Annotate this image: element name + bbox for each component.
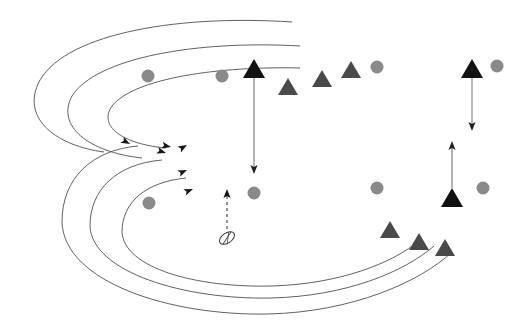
circle-top-left xyxy=(142,70,155,83)
triangle-gray-bottom-2 xyxy=(409,233,429,250)
lower-nested-curves-path-2 xyxy=(90,160,434,298)
upper-nested-curves-path-2 xyxy=(68,45,300,158)
circle-mid-left xyxy=(143,197,156,210)
upper-nested-curves-path-1 xyxy=(34,20,292,152)
triangle-gray-top-3 xyxy=(341,61,361,78)
circle-far-right-mid xyxy=(477,182,490,195)
triangle-gray-bottom-1 xyxy=(380,221,400,238)
upper-nested-curves-arrowhead-3 xyxy=(161,142,171,151)
upper-nested-curves-path-3 xyxy=(108,68,300,148)
diagram-canvas xyxy=(0,0,527,324)
circle-mid-center xyxy=(248,187,261,200)
circle-far-right-top xyxy=(491,60,504,73)
triangle-black-right-top xyxy=(461,59,483,78)
circle-top-mid xyxy=(216,70,229,83)
circle-top-right xyxy=(371,61,384,74)
lower-nested-curves-arrowhead-2 xyxy=(177,167,188,177)
circle-mid-right xyxy=(371,182,384,195)
hatched-ellipse-marker xyxy=(217,229,237,247)
vertical-arrows-group xyxy=(223,78,475,229)
lower-curve-arrowheads xyxy=(177,142,194,195)
triangle-gray-bottom-3 xyxy=(435,239,455,256)
gray-triangles-group xyxy=(278,61,455,256)
upper-nested-curves xyxy=(34,20,300,158)
lower-nested-curves-arrowhead-1 xyxy=(178,142,189,152)
diagram-svg xyxy=(0,0,527,324)
triangle-gray-top-1 xyxy=(278,78,298,95)
triangle-gray-top-2 xyxy=(312,70,332,87)
hatched-ellipse-group xyxy=(217,229,237,247)
black-triangles-group xyxy=(243,59,483,207)
triangle-black-right-bottom xyxy=(441,188,463,207)
lower-nested-curves-arrowhead-3 xyxy=(183,186,194,196)
